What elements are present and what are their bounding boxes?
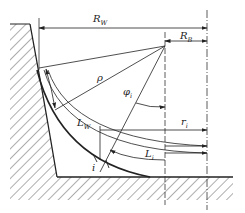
wall-hatching [10,24,233,200]
label-i: i [92,163,95,173]
label-l-i: Li [145,149,154,162]
label-phi-i: φi [123,87,132,100]
label-r-b: RB [180,31,192,44]
diagram-canvas: RW RB ρ φi LW ri Li i [0,0,245,213]
label-r-i: ri [181,117,188,130]
label-r-w: RW [93,14,107,27]
diagram-drawing [0,0,245,213]
phi-angle-arc [136,103,165,107]
rho-arc [46,69,55,108]
label-l-w: LW [77,118,90,131]
label-rho: ρ [97,73,103,83]
